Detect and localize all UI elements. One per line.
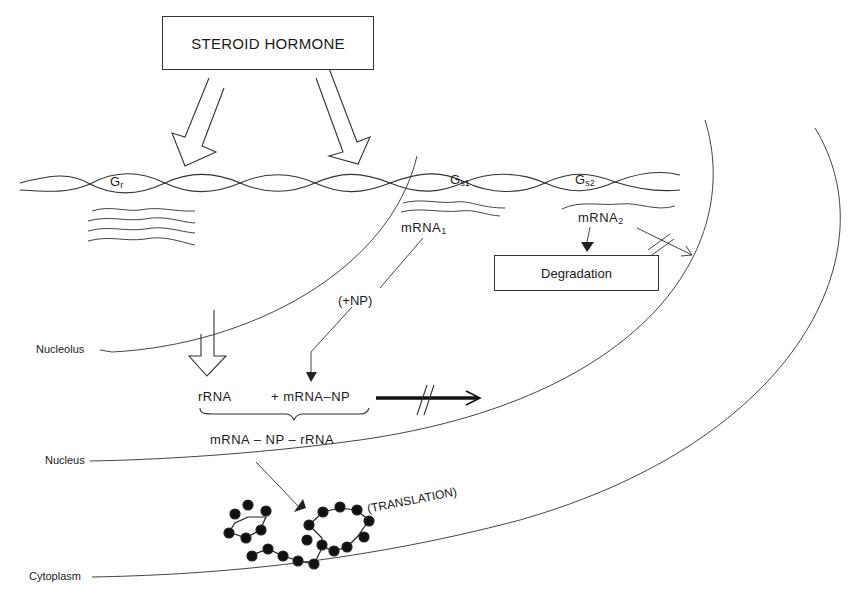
gene-gs2-label: Gs2	[575, 172, 595, 188]
diagram-canvas	[0, 0, 868, 610]
gene-gs1-label: Gs1	[450, 172, 470, 188]
hollow-arrow-right	[316, 63, 370, 164]
mrna1-transcripts	[401, 201, 505, 216]
polysome-left	[224, 500, 271, 543]
np-arrowhead	[306, 372, 317, 382]
mrna-np-label: + mRNA–NP	[271, 389, 350, 404]
nucleolus-boundary	[112, 156, 417, 352]
cytoplasm-label: Cytoplasm	[29, 570, 81, 582]
mrna2-label: mRNA2	[578, 210, 624, 226]
mrna2-transcript	[562, 204, 675, 209]
translation-arrowhead	[294, 499, 306, 512]
mrna1-label: mRNA1	[401, 220, 447, 236]
degradation-box: Degradation	[494, 255, 659, 291]
np-label: (+NP)	[338, 293, 372, 308]
hollow-arrow-down	[189, 310, 226, 376]
steroid-hormone-box: STEROID HORMONE	[162, 16, 374, 70]
steroid-hormone-label: STEROID HORMONE	[191, 35, 345, 52]
rrna-transcripts	[88, 209, 195, 245]
degradation-arrowhead	[581, 242, 594, 252]
cytoplasm-boundary	[92, 128, 840, 577]
degradation-label: Degradation	[541, 266, 612, 281]
rrna-label: rRNA	[198, 389, 232, 404]
gene-gr-label: Gr	[110, 174, 123, 190]
nucleus-label: Nucleus	[45, 454, 85, 466]
hollow-arrow-left	[172, 78, 224, 166]
brace	[200, 408, 369, 420]
nucleolus-label: Nucleolus	[36, 343, 84, 355]
complex-label: mRNA – NP – rRNA	[210, 432, 334, 447]
